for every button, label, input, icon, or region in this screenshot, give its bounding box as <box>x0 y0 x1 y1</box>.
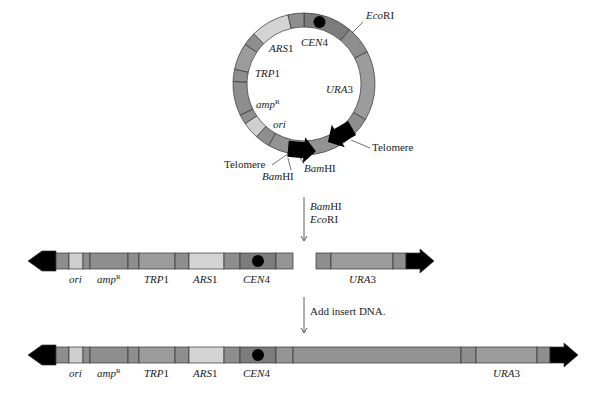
ring-segment-ampr <box>233 82 253 116</box>
label-ampr: ampR <box>256 98 280 110</box>
label-ori: ori <box>69 273 82 285</box>
centromere-dot <box>313 16 325 28</box>
segment-insert-dna <box>293 347 461 363</box>
segment-ori <box>69 253 83 269</box>
ring-segment-ura3 <box>353 52 375 120</box>
label-telomere-right: Telomere <box>372 141 413 153</box>
step2-label: Add insert DNA. <box>310 305 386 317</box>
segment-spacer <box>56 347 69 363</box>
segment-ampr <box>90 347 128 363</box>
left-arm-fragment <box>28 251 293 271</box>
yac-diagram: EcoRI CEN4 ARS1 TRP1 URA3 ampR ori Telom… <box>0 0 607 402</box>
segment-spacer <box>128 347 139 363</box>
label-trp1: TRP1 <box>255 67 280 79</box>
label-ura3: URA3 <box>326 83 353 95</box>
segment-spacer <box>175 347 189 363</box>
segment-ars1 <box>189 253 224 269</box>
label-cen4: CEN4 <box>301 36 328 48</box>
segment-spacer <box>393 253 406 269</box>
telomere-left-arrow <box>28 251 56 271</box>
telomere-right-leader <box>351 140 370 148</box>
segment-spacer <box>128 253 139 269</box>
telomere-left-leader <box>272 153 289 165</box>
telomere-right-arrow <box>550 343 578 367</box>
label-cen4: CEN4 <box>243 367 270 379</box>
step1-enzyme-bamhi: BamHI <box>310 200 342 212</box>
label-ars1: ARS1 <box>192 367 217 379</box>
label-ori: ori <box>69 367 82 379</box>
left-arm-labels: ori ampR TRP1 ARS1 CEN4 <box>69 273 270 285</box>
segment-spacer <box>461 347 476 363</box>
label-trp1: TRP1 <box>144 273 169 285</box>
segment-spacer <box>83 347 90 363</box>
segment-ura3 <box>331 253 393 269</box>
label-bamhi-2: BamHI <box>304 162 336 174</box>
label-bamhi-1: BamHI <box>262 170 294 182</box>
label-ecori: EcoRI <box>365 9 394 21</box>
telomere-right-arrow <box>406 249 434 273</box>
label-cen4: CEN4 <box>243 273 270 285</box>
step2-arrow: Add insert DNA. <box>301 297 386 333</box>
step1-enzyme-ecori: EcoRI <box>309 213 338 225</box>
segment-spacer <box>175 253 189 269</box>
label-ampr: ampR <box>97 367 121 379</box>
segment-spacer <box>276 253 293 269</box>
segment-spacer <box>224 253 240 269</box>
segment-ars1 <box>189 347 224 363</box>
segment-trp1 <box>139 347 175 363</box>
segment-spacer <box>224 347 240 363</box>
final-yac <box>28 343 578 367</box>
centromere-dot <box>252 255 264 267</box>
segment-trp1 <box>139 253 175 269</box>
ring-segment-ars1 <box>254 15 291 44</box>
label-ars1: ARS1 <box>268 42 293 54</box>
segment-spacer <box>276 347 293 363</box>
label-ura3: URA3 <box>493 367 520 379</box>
label-ampr: ampR <box>97 273 121 285</box>
step1-arrow: BamHI EcoRI <box>301 197 342 241</box>
centromere-dot <box>252 349 264 361</box>
segment-spacer <box>56 253 69 269</box>
ring-segment-spacer <box>288 13 304 28</box>
segment-spacer <box>83 253 90 269</box>
label-ura3: URA3 <box>349 273 376 285</box>
ecori-leader-line <box>352 22 363 33</box>
label-trp1: TRP1 <box>144 367 169 379</box>
segment-ori <box>69 347 83 363</box>
segment-ura3 <box>476 347 537 363</box>
telomere-left-arrow <box>28 345 56 365</box>
right-arm-fragment <box>316 249 434 273</box>
segment-spacer <box>537 347 550 363</box>
segment-spacer <box>316 253 331 269</box>
label-ori: ori <box>273 118 286 130</box>
bamhi-1-leader <box>288 158 291 170</box>
label-ars1: ARS1 <box>192 273 217 285</box>
segment-ampr <box>90 253 128 269</box>
final-yac-labels: ori ampR TRP1 ARS1 CEN4 URA3 <box>69 367 520 379</box>
label-telomere-left: Telomere <box>224 158 265 170</box>
